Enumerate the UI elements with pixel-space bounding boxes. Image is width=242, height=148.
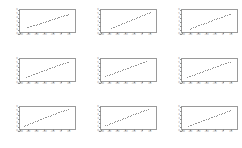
data-point (33, 122, 34, 123)
y-tick-label: 6 (16, 106, 18, 109)
x-tick-label: -60 (115, 83, 119, 86)
data-point (146, 61, 147, 62)
x-tick-label: -40 (204, 83, 208, 86)
plot-area (182, 10, 237, 32)
data-point (138, 113, 139, 114)
y-tick-label: 6 (97, 58, 99, 61)
x-tick-label: -100 (17, 131, 23, 134)
x-tick-label: -100 (179, 34, 185, 37)
data-point (52, 67, 53, 68)
data-point (199, 25, 200, 26)
data-point (120, 120, 121, 121)
data-point (44, 70, 45, 71)
data-point (107, 75, 108, 76)
data-point (125, 69, 126, 70)
y-tick-label: 4 (97, 17, 99, 20)
data-point (220, 65, 221, 66)
x-tick-label: 20 (148, 131, 151, 134)
data-point (131, 20, 132, 21)
x-tick-label: -20 (50, 83, 54, 86)
plot-area (101, 107, 156, 129)
x-tick-label: 0 (141, 34, 143, 37)
data-point (50, 20, 51, 21)
x-tick-label: 0 (222, 131, 224, 134)
y-tick-label: 6 (16, 9, 18, 12)
y-tick-label: 5 (16, 13, 18, 16)
data-point (227, 15, 228, 16)
plot-area (20, 107, 75, 129)
data-point (230, 14, 231, 15)
data-point (43, 22, 44, 23)
data-point (219, 18, 220, 19)
x-tick-label: -40 (42, 131, 46, 134)
subplot-r3-c1: 0123456-100-80-60-40-20020 (19, 106, 76, 130)
x-tick-label: -80 (188, 34, 192, 37)
data-point (204, 120, 205, 121)
data-point (43, 118, 44, 119)
y-tick-label: 2 (16, 25, 18, 28)
data-point (217, 115, 218, 116)
y-tick-label: 2 (16, 74, 18, 77)
axes-frame: 0123456-100-80-60-40-20020 (100, 9, 157, 33)
x-tick-label: -20 (212, 83, 216, 86)
data-point (136, 18, 137, 19)
subplot-r2-c1: 0123456-100-80-60-40-20020 (19, 58, 76, 82)
data-point (68, 109, 69, 110)
data-point (38, 120, 39, 121)
y-tick-label: 3 (178, 70, 180, 73)
x-tick-label: -60 (115, 34, 119, 37)
y-tick-label: 3 (16, 21, 18, 24)
data-point (212, 20, 213, 21)
y-tick-label: 5 (97, 110, 99, 113)
x-tick-label: -80 (188, 83, 192, 86)
x-tick-label: -100 (98, 83, 104, 86)
data-point (191, 28, 192, 29)
data-point (133, 114, 134, 115)
x-tick-label: -40 (123, 34, 127, 37)
plot-area (101, 59, 156, 81)
axes-frame: 0123456-100-80-60-40-20020 (100, 106, 157, 130)
y-tick-label: 6 (178, 106, 180, 109)
axes-frame: 0123456-100-80-60-40-20020 (19, 9, 76, 33)
x-tick-label: -100 (179, 131, 185, 134)
y-tick-label: 1 (97, 78, 99, 81)
data-point (35, 121, 36, 122)
data-point (142, 15, 143, 16)
data-point (212, 68, 213, 69)
y-tick-label: 4 (97, 114, 99, 117)
data-point (201, 121, 202, 122)
data-point (31, 75, 32, 76)
data-point (138, 64, 139, 65)
axes-frame: 0123456-100-80-60-40-20020 (181, 9, 238, 33)
data-point (121, 24, 122, 25)
data-point (130, 67, 131, 68)
y-tick-label: 5 (178, 62, 180, 65)
x-tick-label: 0 (222, 34, 224, 37)
x-tick-label: 0 (141, 83, 143, 86)
y-tick-label: 3 (16, 70, 18, 73)
plot-area (20, 59, 75, 81)
data-point (137, 17, 138, 18)
data-point (46, 21, 47, 22)
data-point (114, 122, 115, 123)
data-point (109, 124, 110, 125)
y-tick-label: 5 (97, 13, 99, 16)
y-tick-label: 1 (97, 29, 99, 32)
data-point (39, 72, 40, 73)
y-tick-label: 1 (97, 126, 99, 129)
data-point (42, 71, 43, 72)
x-tick-label: -60 (115, 131, 119, 134)
x-tick-label: -80 (26, 131, 30, 134)
data-point (65, 63, 66, 64)
figure-canvas: 0123456-100-80-60-40-200200123456-100-80… (0, 0, 242, 148)
plot-area (182, 107, 237, 129)
x-tick-label: 20 (67, 34, 70, 37)
x-tick-label: 20 (229, 34, 232, 37)
x-tick-label: -60 (196, 83, 200, 86)
x-tick-label: 20 (229, 83, 232, 86)
y-tick-label: 2 (16, 122, 18, 125)
x-tick-label: -60 (196, 131, 200, 134)
y-tick-label: 3 (178, 21, 180, 24)
data-point (61, 16, 62, 17)
data-point (210, 69, 211, 70)
